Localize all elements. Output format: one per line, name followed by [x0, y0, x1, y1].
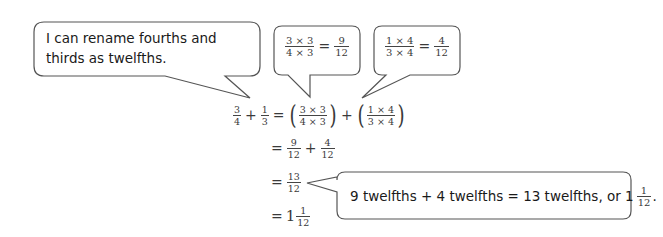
- denominator: 3 × 4: [367, 115, 395, 127]
- denominator: 12: [434, 46, 449, 58]
- fraction: 1312: [287, 171, 301, 194]
- denominator: 12: [296, 216, 310, 228]
- denominator: 12: [287, 148, 301, 160]
- right-paren: ): [397, 102, 404, 128]
- equals-sign: =: [271, 174, 283, 190]
- equals-sign: =: [273, 107, 285, 123]
- left-paren: (: [289, 102, 296, 128]
- numerator: 9: [337, 35, 345, 46]
- numerator: 1: [299, 205, 307, 216]
- fraction: 34: [233, 104, 241, 127]
- fraction: 412: [434, 35, 449, 58]
- numerator: 3 × 3: [285, 35, 314, 46]
- numerator: 13: [287, 171, 301, 182]
- callout-fourths-math: 1 × 43 × 4 = 412: [384, 32, 450, 60]
- left-paren: (: [357, 102, 364, 128]
- equals-sign: =: [271, 140, 283, 156]
- denominator: 3 × 4: [385, 46, 414, 58]
- denominator: 12: [321, 148, 335, 160]
- plus-sign: +: [305, 140, 317, 156]
- fraction: 912: [287, 137, 301, 160]
- sum-sentence: 9 twelfths + 4 twelfths = 13 twelfths, o…: [350, 188, 634, 204]
- fraction: 112: [637, 185, 652, 208]
- equation-line-4: = 1 112: [268, 202, 311, 230]
- equation-line-3: = 1312: [268, 168, 302, 196]
- numerator: 4: [324, 137, 332, 148]
- period: .: [652, 188, 656, 204]
- fraction: 412: [321, 137, 335, 160]
- fraction: 912: [334, 35, 349, 58]
- denominator: 12: [287, 182, 301, 194]
- denominator: 4 × 3: [299, 115, 327, 127]
- callout-thirds-math: 3 × 34 × 3 = 912: [284, 32, 350, 60]
- numerator: 1 × 4: [385, 35, 414, 46]
- denominator: 12: [334, 46, 349, 58]
- equals-sign: =: [418, 38, 430, 54]
- fraction: 3 × 34 × 3: [285, 35, 314, 58]
- callout-rename-text: I can rename fourths and thirds as twelf…: [46, 28, 256, 68]
- numerator: 1: [640, 185, 648, 196]
- equation-line-2: = 912 + 412: [268, 134, 336, 162]
- plus-sign: +: [245, 107, 257, 123]
- numerator: 3 × 3: [299, 104, 327, 115]
- denominator: 3: [261, 115, 269, 127]
- numerator: 1 × 4: [367, 104, 395, 115]
- numerator: 4: [437, 35, 445, 46]
- denominator: 4: [233, 115, 241, 127]
- right-paren: ): [329, 102, 336, 128]
- numerator: 3: [233, 104, 241, 115]
- plus-sign: +: [341, 107, 353, 123]
- fraction: 1 × 43 × 4: [367, 104, 395, 127]
- fraction: 3 × 34 × 3: [299, 104, 327, 127]
- numerator: 1: [261, 104, 269, 115]
- equation-line-1: 34 + 13 = ( 3 × 34 × 3 ) + ( 1 × 43 × 4 …: [232, 100, 406, 130]
- fraction: 112: [296, 205, 310, 228]
- callout-sum-text: 9 twelfths + 4 twelfths = 13 twelfths, o…: [350, 182, 657, 210]
- fraction: 1 × 43 × 4: [385, 35, 414, 58]
- equals-sign: =: [271, 208, 283, 224]
- numerator: 9: [290, 137, 298, 148]
- denominator: 4 × 3: [285, 46, 314, 58]
- fraction: 13: [261, 104, 269, 127]
- equals-sign: =: [318, 38, 330, 54]
- whole-number: 1: [286, 207, 296, 225]
- denominator: 12: [637, 196, 652, 208]
